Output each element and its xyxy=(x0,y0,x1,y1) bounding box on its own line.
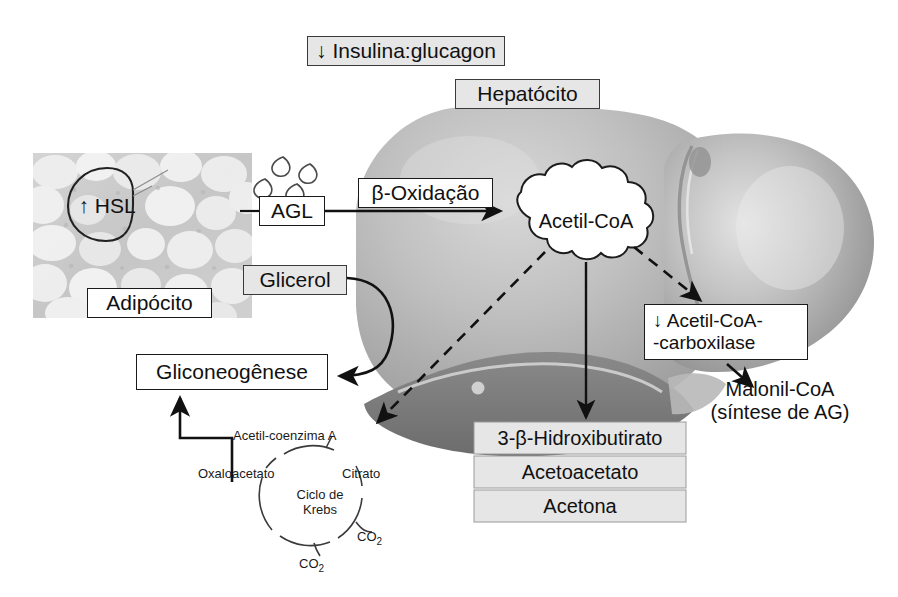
carboxylase-line-1: ↓ Acetil-CoA- xyxy=(653,310,763,331)
label-malonyl-coa: Malonil-CoA (síntese de AG) xyxy=(690,378,870,424)
malonyl-line-1: Malonil-CoA xyxy=(726,378,835,400)
label-hsl: ↑ HSL xyxy=(62,193,152,219)
label-glycerol: Glicerol xyxy=(243,265,347,295)
label-ketone-3-beta-hydroxybutyrate: 3-β-Hidroxibutirato xyxy=(474,422,686,454)
label-acetyl-coa-carboxylase: ↓ Acetil-CoA- -carboxilase xyxy=(644,304,808,360)
label-oxaloacetate: Oxaloacetato xyxy=(198,466,275,481)
label-co2-bottom: CO2 xyxy=(299,556,324,574)
label-insulin-glucagon-ratio: ↓ Insulina:glucagon xyxy=(307,36,505,66)
label-hepatocyte: Hepatócito xyxy=(455,79,600,109)
label-citrate: Citrato xyxy=(342,466,380,481)
co2-bottom-text: CO xyxy=(299,556,319,571)
label-co2-right: CO2 xyxy=(357,529,382,547)
carboxylase-line-2: -carboxilase xyxy=(653,332,801,354)
malonyl-line-2: (síntese de AG) xyxy=(690,401,870,424)
label-adipocyte: Adipócito xyxy=(87,288,212,318)
krebs-line-2: Krebs xyxy=(285,502,355,517)
label-krebs-cycle: Ciclo de Krebs xyxy=(285,487,355,517)
label-beta-oxidation: β-Oxidação xyxy=(358,178,493,208)
label-acetyl-coenzyme-a: Acetil-coenzima A xyxy=(233,428,336,443)
krebs-line-1: Ciclo de xyxy=(297,487,344,502)
label-acetyl-coa: Acetil-CoA xyxy=(521,208,651,234)
diagram-canvas: ↓ Insulina:glucagon Hepatócito β-Oxidaçã… xyxy=(0,0,898,597)
label-ketone-acetoacetate: Acetoacetato xyxy=(474,456,686,488)
co2-bottom-subscript: 2 xyxy=(319,563,325,574)
co2-right-text: CO xyxy=(357,529,377,544)
label-ketone-acetone: Acetona xyxy=(474,490,686,522)
label-agl: AGL xyxy=(259,196,325,226)
label-gluconeogenesis: Gliconeogênese xyxy=(136,354,328,390)
co2-right-subscript: 2 xyxy=(377,536,383,547)
